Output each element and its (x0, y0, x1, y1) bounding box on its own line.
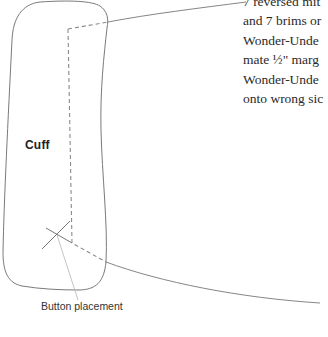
instruction-line: mate ½" marg (243, 50, 328, 69)
instruction-line: and 7 brims or (243, 11, 328, 30)
instruction-line: Wonder-Unde (243, 31, 328, 50)
button-placement-label: Button placement (41, 300, 123, 312)
bottom-leader-line (106, 262, 320, 303)
dashed-fold-line (68, 22, 108, 262)
cuff-outline (3, 1, 108, 290)
instruction-line: Wonder-Unde (243, 70, 328, 89)
instruction-line: 7 reversed mit (243, 0, 328, 11)
cuff-label: Cuff (25, 138, 50, 152)
instruction-line: onto wrong sic (243, 89, 328, 108)
instruction-text: 7 reversed mit and 7 brims or Wonder-Und… (243, 0, 328, 108)
top-leader-line (108, 2, 246, 22)
